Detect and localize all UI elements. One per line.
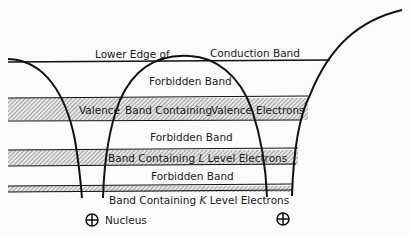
energy-band-diagram: Lower Edge of Conduction Band Forbidden … [0,0,410,235]
label-conduction-band: Conduction Band [210,47,300,59]
label-l-band: Band Containing L Level Electrons [108,152,287,164]
conduction-band-edge [8,60,330,62]
label-valence-c: Valence [211,104,252,116]
label-valence-b: Band Containing [125,104,212,116]
k-band-text-a: Band Containing [109,194,199,206]
label-forbidden-band-1: Forbidden Band [149,75,232,87]
nucleus-right-icon [277,213,289,225]
label-forbidden-band-3: Forbidden Band [151,170,234,182]
k-band-text-b: Level Electrons [206,194,289,206]
right-potential-curve [292,10,402,196]
label-forbidden-band-2: Forbidden Band [150,131,233,143]
l-band-text-a: Band Containing [108,152,198,164]
label-valence-a: Valence [79,104,120,116]
nucleus-left-icon [86,214,98,226]
label-nucleus: Nucleus [105,214,147,226]
label-valence-d: Electrons [256,104,305,116]
left-potential-curve [8,59,82,198]
label-lower-edge: Lower Edge of [95,48,170,60]
l-band-text-b: Level Electrons [204,152,287,164]
label-k-band: Band Containing K Level Electrons [109,194,289,206]
